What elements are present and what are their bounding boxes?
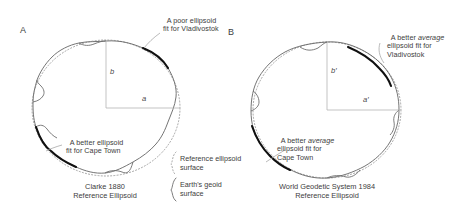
panel-b-callout-vladivostok: A better average ellipsoid fit for Vladi… xyxy=(387,25,444,59)
legend-label-earth-geoid: Earth's geoid surface xyxy=(180,180,222,198)
panel-a-callout-capetown: A better ellipsoid fit for Cape Town xyxy=(66,130,123,156)
panel-a-vladivostok-leader xyxy=(144,33,160,48)
legend-ellipsoid-brace-icon xyxy=(171,152,176,175)
panel-b-callout-capetown-text-after: ellipsoid fit for Cape Town xyxy=(277,144,322,162)
legend-label-reference-ellipsoid: Reference ellipsoid surface xyxy=(180,154,241,172)
panel-a-letter: A xyxy=(20,25,26,35)
panel-a-semi-major-label: a xyxy=(142,94,146,103)
panel-a-caption: Clarke 1880 Reference Ellipsoid xyxy=(45,182,165,201)
panel-a-callout-capetown-text: A better ellipsoid fit for Cape Town xyxy=(66,138,123,156)
panel-b-vladivostok-leader xyxy=(379,43,384,63)
panel-b-semi-minor-label: b′ xyxy=(331,66,337,75)
panel-b-callout-vladivostok-text-after: ellipsoid fit for Vladivostok xyxy=(387,41,432,59)
panel-b-semi-major-label: a′ xyxy=(363,95,369,104)
panel-b-caption: World Geodetic System 1984 Reference Ell… xyxy=(252,182,402,201)
panel-b-vladivostok-fit-arc xyxy=(348,47,391,86)
panel-b-callout-capetown: A better average ellipsoid fit for Cape … xyxy=(277,128,334,162)
legend-braces xyxy=(171,152,176,201)
panel-a-callout-vladivostok: A poor ellipsoid fit for Vladivostok xyxy=(163,8,219,34)
legend-geoid-brace-icon xyxy=(171,178,176,201)
panel-b-letter: B xyxy=(228,27,234,37)
panel-a-geoid-ripple-bottom xyxy=(105,162,133,173)
panel-a-callout-vladivostok-text: A poor ellipsoid fit for Vladivostok xyxy=(163,16,219,34)
panel-a-semi-minor-label: b xyxy=(110,67,114,76)
